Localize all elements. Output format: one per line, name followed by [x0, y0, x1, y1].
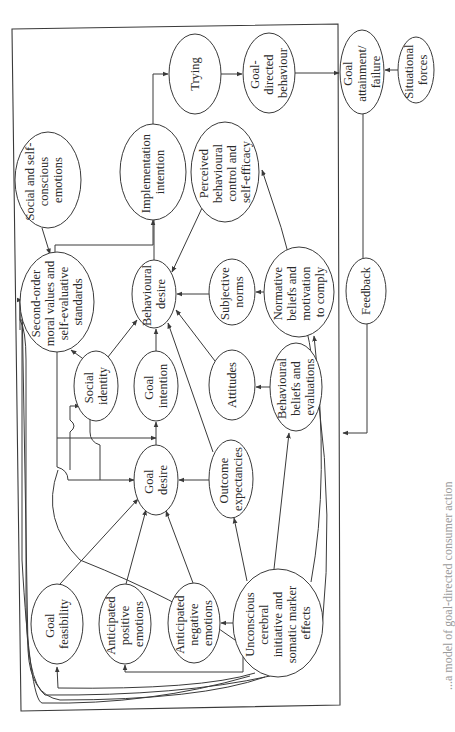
svg-text:Attitudes: Attitudes: [225, 362, 239, 408]
node-situational-forces: Situational forces: [398, 37, 434, 103]
svg-text:Perceived behavioural: Perceived behavioural control and self-e…: [197, 140, 253, 203]
node-perceived-behavioural-control: Perceived behavioural control and self-e…: [191, 122, 259, 222]
node-goal-directed-behaviour: Goal- directed behaviour: [243, 33, 295, 113]
node-behavioural-desire: Behavioural desire: [132, 260, 176, 328]
node-goal-desire: Goal desire: [134, 445, 178, 515]
node-trying: Trying: [169, 34, 221, 114]
node-subjective-norms: Subjective norms: [209, 259, 255, 325]
edge-moral-to-implementation: [55, 220, 153, 252]
edge-attitudes-to-behavioural-desire: [176, 310, 215, 361]
edge-feasibility-to-goal-desire: [60, 499, 138, 584]
node-social-identity: Social identity: [74, 351, 118, 421]
node-anticipated-negative-emotions: Anticipated negative emotions: [168, 583, 220, 663]
svg-text:Goal desire: Goal desire: [142, 465, 170, 495]
edge-positive-to-goal-desire: [126, 510, 146, 584]
svg-text:Normative beliefs and: Normative beliefs and motivation to comp…: [271, 263, 327, 321]
edge-unconscious-to-outcome: [234, 518, 247, 581]
node-outcome-expectancies: Outcome expectancies: [209, 440, 253, 518]
node-implementation-intention: Implementation intention: [120, 124, 186, 220]
edge-feedback-to-model: [343, 324, 367, 433]
svg-text:Social identity: Social identity: [82, 366, 110, 405]
svg-text:Feedback: Feedback: [359, 266, 373, 315]
edge-moral-to-goal-desire: [57, 438, 134, 480]
node-goal-intention: Goal intention: [134, 351, 178, 421]
node-second-order-moral-values: Second-order moral values and self-evalu…: [20, 252, 94, 352]
edge-control-to-behavioural-desire: [172, 208, 202, 272]
edge-negative-to-goal-desire: [166, 511, 193, 583]
edge-social-emotions-to-moral: [42, 228, 50, 254]
figure-caption: ...a model of goal-directed consumer act…: [441, 481, 455, 690]
svg-text:Trying: Trying: [188, 56, 202, 90]
node-social-self-conscious-emotions: Social and self- conscious emotions: [15, 132, 81, 228]
node-behavioural-beliefs: Behavioural beliefs and evaluations: [270, 343, 322, 431]
svg-text:Behavioural beliefs and: Behavioural beliefs and evaluations: [275, 355, 317, 419]
edge-unconscious-to-feasibility: [57, 667, 255, 688]
node-anticipated-positive-emotions: Anticipated positive emotions: [99, 584, 151, 664]
edge-unconscious-to-beliefs: [274, 433, 289, 569]
node-goal-feasibility: Goal feasibility: [31, 584, 83, 664]
node-normative-beliefs: Normative beliefs and motivation to comp…: [264, 247, 334, 337]
svg-text:Outcome expectancies: Outcome expectancies: [217, 447, 245, 511]
node-attitudes: Attitudes: [209, 350, 255, 420]
model-diagram: Social and self- conscious emotions Impl…: [0, 0, 455, 732]
edge-identity-to-behavioural-desire: [108, 320, 137, 357]
svg-text:Anticipated negative: Anticipated negative emotions: [173, 592, 215, 653]
edge-identity-to-moral: [71, 350, 82, 358]
node-feedback: Feedback: [346, 258, 386, 324]
node-goal-attainment-failure: Goal attainment/ failure: [340, 30, 384, 114]
edge-implementation-to-trying: [153, 74, 168, 124]
node-unconscious-cerebral-initiative: Unconscious cerebral initiative and soma…: [233, 569, 323, 677]
